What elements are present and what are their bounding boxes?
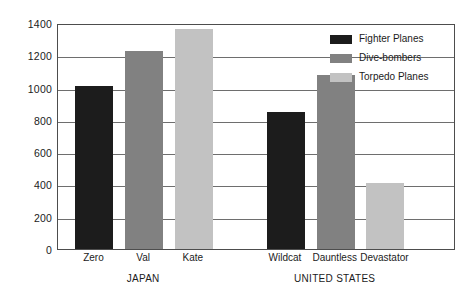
bar-wildcat [267,112,305,249]
gridline [58,154,454,155]
y-axis-tick-label: 1200 [6,51,52,62]
legend-label: Torpedo Planes [359,72,429,82]
category-label-kate: Kate [153,253,233,263]
group-label-united-states: UNITED STATES [265,274,405,284]
legend-label: Dive-bombers [359,53,421,63]
legend-item: Torpedo Planes [330,69,448,85]
group-label-japan: JAPAN [73,274,213,284]
legend-swatch-icon [330,54,352,63]
y-axis: 0200400600800100012001400 [0,24,52,250]
legend-swatch-icon [330,73,352,82]
y-axis-tick-label: 1000 [6,84,52,95]
y-axis-tick-label: 400 [6,180,52,191]
category-label-devastator: Devastator [344,253,424,263]
legend-item: Fighter Planes [330,31,448,47]
chart-legend: Fighter PlanesDive-bombersTorpedo Planes [330,31,448,88]
y-axis-tick-label: 600 [6,148,52,159]
group-axis-labels: JAPANUNITED STATES [57,274,455,288]
y-axis-tick-label: 1400 [6,19,52,30]
y-axis-tick-label: 0 [6,245,52,256]
category-axis-labels: ZeroValKateWildcatDauntlessDevastator [57,253,455,267]
bar-zero [75,86,113,249]
bar-kate [175,29,213,249]
bar-devastator [366,183,404,249]
y-axis-tick-label: 800 [6,116,52,127]
gridline [58,90,454,91]
legend-label: Fighter Planes [359,34,423,44]
bar-val [125,51,163,249]
gridline [58,122,454,123]
legend-item: Dive-bombers [330,50,448,66]
y-axis-tick-label: 200 [6,213,52,224]
bar-dauntless [317,75,355,249]
bar-chart: 0200400600800100012001400 ZeroValKateWil… [0,0,474,303]
legend-swatch-icon [330,35,352,44]
